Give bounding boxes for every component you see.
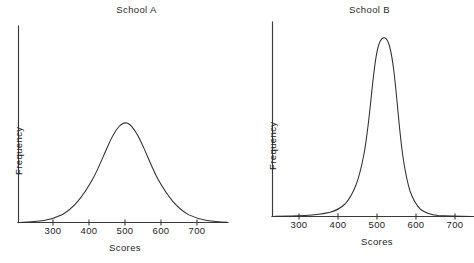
y-axis-title-school-a: Frequency	[13, 127, 24, 175]
x-tick-label-500-b: 500	[362, 219, 392, 230]
distribution-curve-school-b	[275, 38, 472, 217]
chart-panel-school-a: School A 300 400 500 600 700 Scores Freq…	[0, 0, 237, 263]
x-tick-label-500-a: 500	[110, 225, 140, 236]
x-tick-label-700-b: 700	[440, 219, 470, 230]
x-tick-label-400-a: 400	[74, 225, 104, 236]
x-tick-label-400-b: 400	[323, 219, 353, 230]
x-axis-title-school-a: Scores	[85, 242, 165, 253]
scan-artifact-text	[0, 256, 474, 262]
x-tick-label-700-a: 700	[182, 225, 212, 236]
x-tick-label-600-b: 600	[401, 219, 431, 230]
x-tick-label-300-b: 300	[284, 219, 314, 230]
y-axis-title-school-b: Frequency	[267, 122, 278, 170]
plot-area-school-a	[0, 0, 237, 263]
x-tick-label-300-a: 300	[38, 225, 68, 236]
figure-container: School A 300 400 500 600 700 Scores Freq…	[0, 0, 474, 263]
x-tick-label-600-a: 600	[146, 225, 176, 236]
distribution-curve-school-a	[22, 123, 227, 222]
x-axis-title-school-b: Scores	[337, 236, 417, 247]
chart-panel-school-b: School B 300 400 500 600 700 Scores Freq…	[237, 0, 474, 263]
